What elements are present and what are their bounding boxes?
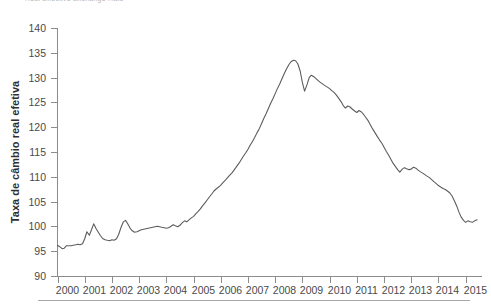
y-tick-label: 105 [28, 196, 46, 208]
x-tick-label: 2012 [382, 284, 406, 296]
x-tick-label: 2003 [137, 284, 161, 296]
y-axis-tick-labels: 140 135 130 125 120 115 110 105 100 95 9… [28, 22, 46, 282]
reer-series-line [58, 60, 478, 248]
y-tick-label: 140 [28, 22, 46, 34]
y-tick-label: 120 [28, 121, 46, 133]
y-axis-ticks [51, 29, 58, 277]
x-tick-label: 2001 [83, 284, 107, 296]
x-tick-label: 2011 [355, 284, 378, 296]
x-tick-label: 2008 [273, 284, 297, 296]
x-tick-label: 2010 [328, 284, 352, 296]
x-tick-label: 2009 [300, 284, 324, 296]
x-tick-label: 2000 [56, 284, 80, 296]
y-tick-label: 110 [29, 171, 46, 183]
y-axis-title: Taxa de câmbio real efetiva [9, 80, 21, 223]
exchange-rate-line-chart: 140 135 130 125 120 115 110 105 100 95 9… [0, 0, 491, 308]
x-tick-label: 2005 [192, 284, 216, 296]
x-tick-label: 2014 [436, 284, 460, 296]
y-tick-label: 130 [28, 72, 46, 84]
y-tick-label: 135 [28, 47, 46, 59]
x-tick-label: 2004 [164, 284, 188, 296]
x-tick-label: 2006 [219, 284, 243, 296]
x-tick-label: 2013 [409, 284, 433, 296]
y-tick-label: 100 [28, 220, 46, 232]
y-tick-label: 115 [29, 146, 46, 158]
x-axis-tick-labels: 2000200120022003200420052006200720082009… [56, 284, 488, 296]
chart-figure: Real Effective Exchange Rate 140 135 130… [0, 0, 491, 308]
y-tick-label: 90 [34, 270, 46, 282]
x-tick-label: 2002 [110, 284, 134, 296]
x-tick-label: 2007 [246, 284, 270, 296]
y-tick-label: 125 [28, 96, 46, 108]
x-tick-label: 2015 [464, 284, 488, 296]
x-axis-ticks [59, 277, 467, 283]
y-tick-label: 95 [34, 245, 46, 257]
